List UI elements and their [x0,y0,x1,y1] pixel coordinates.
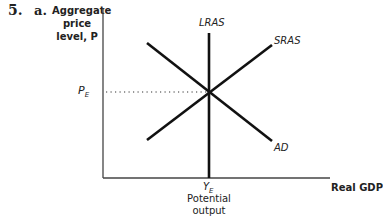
pe-sub: E [85,91,89,99]
potential-line2: output [179,205,239,217]
sras-label: SRAS [274,35,300,46]
x-axis-label: Real GDP [331,182,383,193]
pe-main: P [78,84,85,97]
potential-output-label: Potential output [179,193,239,217]
ad-label: AD [274,142,289,153]
lras-label: LRAS [199,17,225,28]
potential-line1: Potential [179,193,239,205]
pe-label: PE [78,84,89,99]
